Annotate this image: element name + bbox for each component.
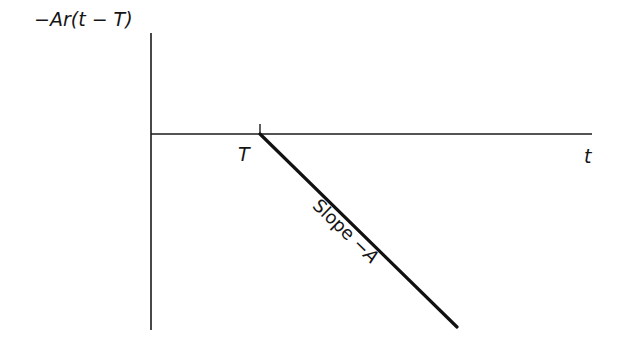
x-axis-label: t xyxy=(584,147,591,166)
ramp-diagram xyxy=(0,0,625,354)
y-axis-label: −Ar(t − T) xyxy=(34,10,133,29)
tick-label-T: T xyxy=(238,145,250,164)
